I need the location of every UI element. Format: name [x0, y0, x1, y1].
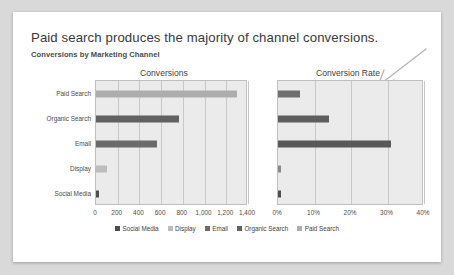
legend-item: Display — [168, 225, 196, 232]
x-tick-label: 0% — [272, 209, 281, 216]
bar-social-media — [96, 190, 99, 197]
slide-card: Paid search produces the majority of cha… — [13, 12, 441, 262]
x-tick-label: 10% — [307, 209, 320, 216]
legend-item: Organic Search — [237, 225, 288, 232]
page-subtitle: Conversions by Marketing Channel — [31, 50, 160, 59]
x-tick-label: 1,200 — [217, 209, 233, 216]
x-tick-label: 200 — [111, 209, 122, 216]
x-tick-label: 400 — [133, 209, 144, 216]
x-tick-label: 600 — [155, 209, 166, 216]
bar-organic-search — [278, 115, 329, 122]
category-label-social-media: Social Media — [54, 189, 91, 196]
chart-title-conversion-rate: Conversion Rate — [263, 68, 433, 78]
category-label-email: Email — [75, 139, 91, 146]
legend-label: Email — [212, 225, 228, 232]
category-label-paid-search: Paid Search — [56, 89, 91, 96]
chart-legend: Social MediaDisplayEmailOrganic SearchPa… — [13, 225, 441, 232]
category-label-organic-search: Organic Search — [47, 114, 91, 121]
legend-label: Paid Search — [305, 225, 339, 232]
x-tick-label: 0 — [93, 209, 97, 216]
legend-swatch-icon — [297, 226, 302, 231]
legend-item: Social Media — [115, 225, 159, 232]
page-title: Paid search produces the majority of cha… — [31, 30, 378, 45]
chart-title-conversions: Conversions — [79, 68, 249, 78]
bar-display — [278, 165, 281, 172]
gridline — [226, 81, 227, 204]
legend-item: Paid Search — [297, 225, 339, 232]
bar-paid-search — [278, 90, 300, 97]
gridline — [161, 81, 162, 204]
bar-social-media — [278, 190, 281, 197]
legend-label: Organic Search — [244, 225, 288, 232]
gridline — [424, 81, 425, 204]
x-tick-label: 1,000 — [196, 209, 212, 216]
category-label-display: Display — [70, 164, 91, 171]
legend-swatch-icon — [168, 226, 173, 231]
bar-paid-search — [96, 90, 237, 97]
bar-email — [278, 140, 391, 147]
gridline — [183, 81, 184, 204]
x-tick-label: 20% — [344, 209, 357, 216]
legend-label: Social Media — [122, 225, 158, 232]
gridline — [205, 81, 206, 204]
legend-swatch-icon — [237, 226, 242, 231]
bar-organic-search — [96, 115, 179, 122]
legend-swatch-icon — [205, 226, 210, 231]
bar-email — [96, 140, 157, 147]
x-tick-label: 30% — [380, 209, 393, 216]
legend-item: Email — [205, 225, 228, 232]
x-tick-label: 1,400 — [239, 209, 255, 216]
legend-swatch-icon — [115, 226, 120, 231]
legend-label: Display — [175, 225, 196, 232]
plot-area-conversions — [95, 80, 247, 205]
gridline — [248, 81, 249, 204]
x-tick-label: 40% — [417, 209, 430, 216]
x-tick-label: 800 — [177, 209, 188, 216]
category-axis-labels: Paid SearchOrganic SearchEmailDisplaySoc… — [13, 80, 91, 205]
plot-area-conversion-rate — [277, 80, 423, 205]
bar-display — [96, 165, 107, 172]
